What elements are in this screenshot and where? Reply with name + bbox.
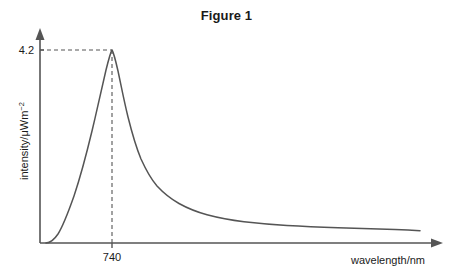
x-axis-arrowhead — [431, 239, 443, 248]
x-axis-title: wavelength/nm — [350, 254, 425, 266]
y-tick-label-4.2: 4.2 — [19, 44, 34, 56]
spectrum-curve — [46, 50, 420, 243]
y-axis-title: intensity/μWm−2 — [17, 102, 30, 180]
y-axis-title-superscript: −2 — [17, 102, 26, 111]
x-tick-label-740: 740 — [103, 251, 121, 263]
spectrum-plot: 4.2 740 wavelength/nm intensity/μWm−2 — [0, 0, 453, 275]
y-axis-arrowhead — [36, 28, 45, 40]
figure-container: Figure 1 4.2 740 wavelength/nm intensity… — [0, 0, 453, 275]
y-axis-title-base: intensity/μWm — [18, 111, 30, 180]
